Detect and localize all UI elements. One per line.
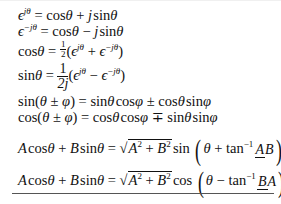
bottom-rule <box>12 193 274 194</box>
formula-harmonic-sin: A cosθ + B sinθ = √A2 + B2 sin (θ + tan−… <box>18 135 281 165</box>
fraction-a-over-b: AB <box>255 143 274 157</box>
square-root: √A2 + B2 <box>120 173 172 188</box>
fraction-one-over-2j: 12j <box>57 62 68 91</box>
formula-sin-exp: sinθ = 12j(ϵjθ − ϵ−jθ) <box>18 62 125 91</box>
top-rule <box>0 0 281 1</box>
formula-sin-sum: sin(θ ± φ) = sinθ cosφ ± cosθ sinφ <box>18 94 211 109</box>
formula-euler-pos: ϵjθ = cosθ + j sinθ <box>18 8 117 23</box>
formula-cos-exp: cosθ = 12(ϵjθ + ϵ−jθ) <box>18 40 123 59</box>
formula-cos-sum: cos(θ ± φ) = cosθ cosφ ∓ sinθ sinφ <box>18 110 218 125</box>
fraction-b-over-a: BA <box>257 175 276 189</box>
formula-euler-neg: ϵ−jθ = cosθ − j sinθ <box>18 24 123 39</box>
square-root: √A2 + B2 <box>120 141 172 156</box>
